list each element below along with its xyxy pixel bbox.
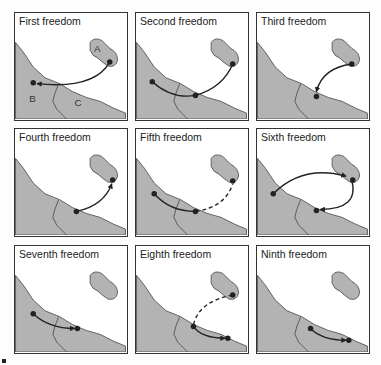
- panel-first-freedom: First freedom A B C: [14, 12, 128, 121]
- map-illustration: [136, 129, 247, 235]
- corner-mark: [2, 359, 6, 363]
- panel-title: Eighth freedom: [140, 248, 211, 260]
- label-a: A: [94, 43, 101, 54]
- label-c: C: [74, 97, 81, 108]
- map-illustration: A B C: [15, 13, 126, 119]
- panel-seventh-freedom: Seventh freedom: [14, 245, 128, 354]
- panel-eighth-freedom: Eighth freedom: [135, 245, 249, 354]
- label-b: B: [29, 93, 36, 104]
- map-illustration: [136, 246, 247, 352]
- panel-title: Third freedom: [261, 15, 326, 27]
- panel-title: First freedom: [19, 15, 81, 27]
- map-illustration: [15, 129, 126, 235]
- panel-title: Ninth freedom: [261, 248, 327, 260]
- panel-title: Second freedom: [140, 15, 217, 27]
- panel-title: Seventh freedom: [19, 248, 99, 260]
- map-illustration: [257, 129, 368, 235]
- panel-second-freedom: Second freedom: [135, 12, 249, 121]
- panel-title: Sixth freedom: [261, 131, 326, 143]
- panel-ninth-freedom: Ninth freedom: [256, 245, 370, 354]
- map-illustration: [257, 246, 368, 352]
- panel-fourth-freedom: Fourth freedom: [14, 128, 128, 237]
- panel-third-freedom: Third freedom: [256, 12, 370, 121]
- panel-title: Fifth freedom: [140, 131, 202, 143]
- panel-title: Fourth freedom: [19, 131, 91, 143]
- map-illustration: [15, 246, 126, 352]
- map-illustration: [136, 13, 247, 119]
- map-illustration: [257, 13, 368, 119]
- panel-sixth-freedom: Sixth freedom: [256, 128, 370, 237]
- panel-fifth-freedom: Fifth freedom: [135, 128, 249, 237]
